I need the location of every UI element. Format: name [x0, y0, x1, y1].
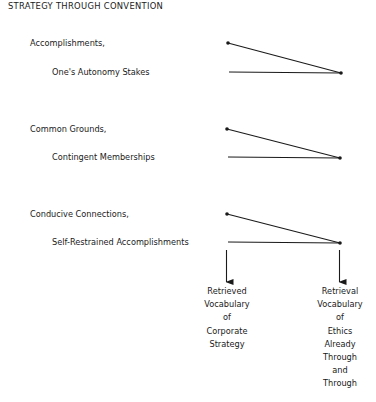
output-right-line: Through [295, 377, 376, 390]
output-left-line: Retrieved [182, 285, 272, 298]
group-1-start-dot [226, 41, 230, 45]
group-2-start-dot [225, 127, 229, 131]
group-2-convergence [225, 127, 342, 160]
output-right-line: Retrieval [295, 285, 376, 298]
group-2-end-dot [338, 156, 342, 160]
output-right-line: Ethics [295, 325, 376, 338]
output-right-line: Vocabulary [295, 298, 376, 311]
output-right-line: Through [295, 351, 376, 364]
group-1-end-dot [339, 71, 343, 75]
group-1-convergence [226, 41, 343, 75]
group-3-start-dot [225, 212, 229, 216]
output-right-line: and [295, 364, 376, 377]
output-left-line: Vocabulary [182, 298, 272, 311]
output-left-line: Strategy [182, 338, 272, 351]
output-left-corporate-strategy: Retrieved Vocabulary of Corporate Strate… [182, 285, 272, 351]
output-left-line: of [182, 311, 272, 324]
output-left-line: Corporate [182, 325, 272, 338]
output-right-line: of [295, 311, 376, 324]
group-3-convergence [225, 212, 342, 245]
output-right-line: Already [295, 338, 376, 351]
group-3-end-dot [338, 241, 342, 245]
output-right-ethics: Retrieval Vocabulary of Ethics Already T… [295, 285, 376, 391]
